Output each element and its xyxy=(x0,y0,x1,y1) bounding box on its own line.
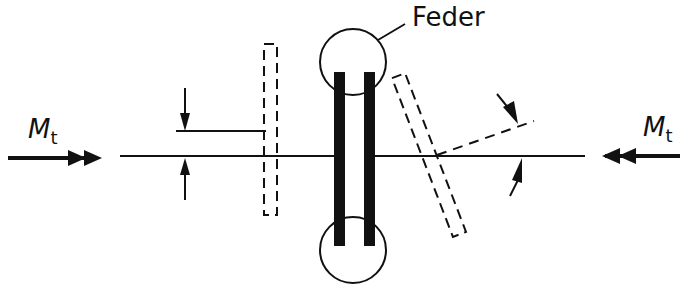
angle-reference-dashed-line xyxy=(437,121,534,155)
torque-label-right: Mt xyxy=(643,112,673,146)
offset-arrowhead-bottom xyxy=(180,158,190,175)
offset-arrowhead-top xyxy=(180,113,190,131)
spring-top-circle xyxy=(320,29,386,95)
torque-arrowhead-right-1 xyxy=(602,148,620,164)
undeflected-plate-dashed xyxy=(264,44,277,215)
torque-subscript-left: t xyxy=(50,127,57,148)
spring-plate-right-bar xyxy=(364,72,375,246)
torque-arrowhead-left-1 xyxy=(68,150,86,166)
torque-symbol-right: M xyxy=(643,112,665,142)
torque-arrowhead-left-2 xyxy=(84,150,102,166)
torsion-spring-coupling-diagram: Feder Mt Mt xyxy=(0,0,689,291)
spring-leader-line xyxy=(378,24,405,40)
spring-bottom-circle xyxy=(320,217,386,283)
angle-arrowhead-bottom xyxy=(512,158,522,183)
torque-subscript-right: t xyxy=(665,125,672,146)
spring-label: Feder xyxy=(412,2,485,32)
diagram-drawing xyxy=(0,0,689,291)
spring-plate-left-bar xyxy=(334,72,345,246)
torque-arrowhead-right-2 xyxy=(618,148,636,164)
torque-label-left: Mt xyxy=(28,114,58,148)
torque-symbol-left: M xyxy=(28,114,50,144)
